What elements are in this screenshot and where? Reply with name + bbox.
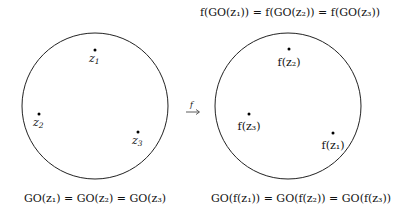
arrow-icon <box>186 110 200 115</box>
right-caption: GO(f(z₁)) = GO(f(z₂)) = GO(f(z₃)) <box>211 192 391 205</box>
arrow-label: f <box>189 100 195 109</box>
point-f-z2 <box>288 48 291 51</box>
label-z1: z1 <box>88 52 100 66</box>
left-caption: GO(z₁) = GO(z₂) = GO(z₃) <box>24 192 166 205</box>
point-f-z3 <box>248 113 251 116</box>
orbit-diagram: z1 z2 z3 GO(z₁) = GO(z₂) = GO(z₃) f f(GO… <box>0 0 417 214</box>
right-title: f(GO(z₁)) = f(GO(z₂)) = f(GO(z₃)) <box>200 6 380 19</box>
label-f-z3: f(z₃) <box>238 120 261 133</box>
left-domain-circle <box>22 33 168 179</box>
point-f-z1 <box>332 132 335 135</box>
label-z2: z2 <box>32 116 44 130</box>
label-z3: z3 <box>131 134 143 148</box>
label-f-z2: f(z₂) <box>278 56 301 69</box>
label-f-z1: f(z₁) <box>322 139 345 152</box>
right-image-circle <box>215 33 361 179</box>
